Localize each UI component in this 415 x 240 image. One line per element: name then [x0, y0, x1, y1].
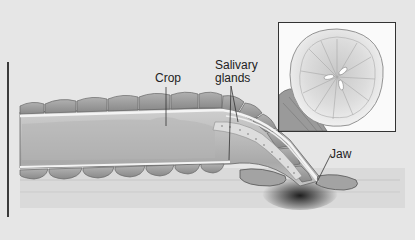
oral-sucker-illustration: [279, 23, 395, 131]
label-jaw: Jaw: [330, 148, 351, 161]
side-rule: [7, 62, 9, 217]
label-salivary-glands: Salivary glands: [215, 59, 258, 85]
crop-chamber: [22, 117, 215, 160]
oral-sucker-inset: [278, 22, 396, 132]
label-crop: Crop: [155, 72, 181, 85]
label-salivary-line2: glands: [215, 72, 258, 85]
